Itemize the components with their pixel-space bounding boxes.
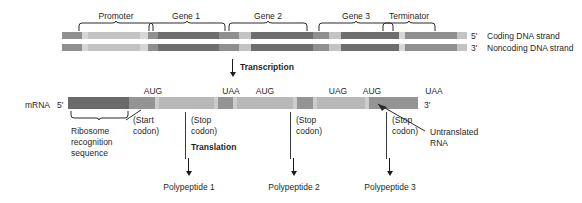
codon-label-uaa-1: UAA <box>222 86 239 96</box>
brace-ribosome-recognition <box>70 111 130 120</box>
noncoding-dna-segment <box>313 44 329 51</box>
noncoding-strand-prime-label: 3' <box>471 43 477 53</box>
stop-codon-3-line-1: (Stop <box>392 115 412 125</box>
coding-dna-segment <box>239 32 251 39</box>
coding-dna-segment <box>313 32 329 39</box>
divider-line-2 <box>290 112 291 159</box>
noncoding-dna-segment <box>239 44 251 51</box>
stop-codon-1-line-2: codon) <box>191 126 217 136</box>
ribosome-recognition-line-3: sequence <box>71 148 108 158</box>
coding-dna-strand <box>62 32 467 39</box>
stop-codon-1-line-1: (Stop <box>191 115 211 125</box>
coding-strand-label: Coding DNA strand <box>487 31 560 41</box>
coding-dna-segment <box>158 32 219 39</box>
noncoding-dna-segment <box>88 44 140 51</box>
brace-promoter <box>78 21 154 31</box>
label-terminator: Terminator <box>389 11 429 21</box>
brace-gene-2 <box>228 21 308 31</box>
coding-dna-segment <box>341 32 399 39</box>
codon-label-aug-1: AUG <box>144 86 162 96</box>
mrna-segment <box>317 97 365 109</box>
codon-label-aug-3: AUG <box>363 86 381 96</box>
noncoding-dna-segment <box>405 44 457 51</box>
polypeptide-3-label: Polypeptide 3 <box>364 182 416 192</box>
noncoding-dna-segment <box>148 44 158 51</box>
stop-codon-2-line-1: (Stop <box>296 115 316 125</box>
noncoding-dna-segment <box>62 44 82 51</box>
diagram-canvas: Promoter Gene 1 Gene 2 Gene 3 Terminator… <box>0 0 582 203</box>
noncoding-dna-segment <box>140 44 148 51</box>
noncoding-strand-label: Noncoding DNA strand <box>487 43 573 53</box>
untranslated-rna-line-1: Untranslated <box>430 127 478 137</box>
start-codon-line-2: codon) <box>133 126 159 136</box>
ribosome-recognition-line-1: Ribosome <box>71 126 109 136</box>
coding-dna-segment <box>405 32 457 39</box>
untranslated-rna-line-2: RNA <box>430 138 448 148</box>
transcription-arrow-head <box>230 72 236 77</box>
coding-dna-segment <box>457 32 467 39</box>
stop-codon-3-line-2: codon) <box>392 126 418 136</box>
mrna-segment <box>218 97 233 109</box>
mrna-segment <box>129 97 155 109</box>
polypeptide-2-arrow-head <box>291 171 297 176</box>
divider-line-3 <box>386 112 387 159</box>
coding-dna-segment <box>140 32 148 39</box>
mrna-segment <box>297 97 313 109</box>
coding-dna-segment <box>62 32 82 39</box>
label-gene-2: Gene 2 <box>254 11 282 21</box>
coding-dna-segment <box>251 32 313 39</box>
codon-label-uaa-2: UAA <box>425 86 442 96</box>
codon-label-aug-2: AUG <box>256 86 274 96</box>
polypeptide-1-label: Polypeptide 1 <box>163 182 215 192</box>
label-gene-1: Gene 1 <box>172 11 200 21</box>
mrna-name-label: mRNA <box>25 100 50 110</box>
divider-line-1 <box>185 112 186 159</box>
noncoding-dna-segment <box>341 44 399 51</box>
noncoding-dna-segment <box>251 44 313 51</box>
codon-label-uag: UAG <box>329 86 347 96</box>
mrna-segment <box>68 97 129 109</box>
transcription-label: Transcription <box>240 62 294 72</box>
polypeptide-1-arrow-head <box>186 171 192 176</box>
label-promoter: Promoter <box>99 11 134 21</box>
start-codon-line-1: (Start <box>133 115 154 125</box>
ribosome-recognition-line-2: recognition <box>71 137 113 147</box>
noncoding-dna-segment <box>329 44 341 51</box>
stop-codon-2-line-2: codon) <box>296 126 322 136</box>
noncoding-dna-segment <box>219 44 239 51</box>
label-gene-3: Gene 3 <box>342 11 370 21</box>
coding-dna-segment <box>148 32 158 39</box>
translation-label: Translation <box>191 142 236 152</box>
coding-strand-prime-label: 5' <box>471 31 477 41</box>
polypeptide-3-arrow-head <box>387 171 393 176</box>
coding-dna-segment <box>329 32 341 39</box>
noncoding-dna-segment <box>158 44 219 51</box>
noncoding-dna-segment <box>457 44 467 51</box>
mrna-segment <box>159 97 214 109</box>
coding-dna-segment <box>88 32 140 39</box>
noncoding-dna-strand <box>62 44 467 51</box>
brace-gene-1 <box>148 21 226 31</box>
mrna-segment <box>237 97 293 109</box>
coding-dna-segment <box>219 32 239 39</box>
mrna-five-prime-label: 5' <box>57 100 63 110</box>
polypeptide-2-label: Polypeptide 2 <box>268 182 320 192</box>
brace-terminator <box>382 21 436 31</box>
mrna-strand <box>68 97 418 109</box>
